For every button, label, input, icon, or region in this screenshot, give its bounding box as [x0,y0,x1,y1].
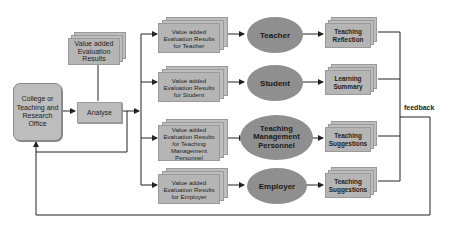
eval-label-teacher: Value added Evaluation Results for Teach… [158,23,220,53]
eval-label-student: Value added Evaluation Results for Stude… [158,72,220,102]
actor-employer: Employer [247,168,307,204]
eval-stack-teacher: Value added Evaluation Results for Teach… [158,17,228,53]
output-label-management: Teaching Suggestions [325,127,371,152]
actor-student: Student [247,65,303,101]
evaluation-results-label: Value added Evaluation Results [68,38,120,65]
output-stack-employer: Teaching Suggestions [325,167,377,198]
feedback-label: feedback [404,104,434,111]
actor-teacher: Teacher [247,17,303,53]
output-label-employer: Teaching Suggestions [325,173,371,198]
analyse-box: Analyse [77,102,122,123]
output-stack-management: Teaching Suggestions [325,121,377,152]
output-label-teacher: Teaching Reflection [325,23,371,48]
output-label-student: Learning Summary [325,70,371,95]
eval-label-employer: Value added Evaluation Results for Emplo… [158,174,220,204]
eval-stack-student: Value added Evaluation Results for Stude… [158,66,228,102]
output-stack-student: Learning Summary [325,64,377,95]
evaluation-results-stack: Value added Evaluation Results [68,32,126,65]
eval-label-management: Value added Evaluation Results for Teach… [158,125,220,161]
eval-stack-employer: Value added Evaluation Results for Emplo… [158,168,228,204]
college-office-box: College or Teaching and Research Office [13,83,62,141]
actor-management: Teaching Management Personnel [240,115,313,160]
eval-stack-management: Value added Evaluation Results for Teach… [158,119,228,161]
output-stack-teacher: Teaching Reflection [325,17,377,48]
